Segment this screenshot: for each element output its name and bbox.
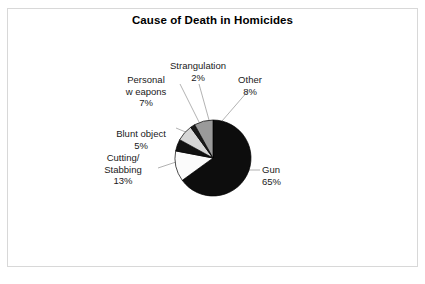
pie-label-other-percent: 8% <box>228 86 272 98</box>
pie-slices-group <box>175 120 251 196</box>
pie-label-other: Other 8% <box>228 74 272 97</box>
pie-label-gun-percent: 65% <box>262 176 306 188</box>
pie-label-personal-weapons-name-line2: w eapons <box>108 86 184 98</box>
pie-label-gun: Gun 65% <box>262 164 306 187</box>
pie-label-blunt-object-percent: 5% <box>100 140 182 152</box>
pie-label-personal-weapons-name-line1: Personal <box>108 74 184 86</box>
pie-label-gun-name: Gun <box>262 164 306 176</box>
chart-screenshot: Cause of Death in Homicides Strangulatio… <box>0 0 425 284</box>
pie-label-other-name: Other <box>228 74 272 86</box>
pie-label-cutting-stabbing-percent: 13% <box>86 175 160 187</box>
pie-label-blunt-object-name: Blunt object <box>100 128 182 140</box>
pie-label-cutting-stabbing-name-line2: Stabbing <box>86 164 160 176</box>
pie-label-personal-weapons-percent: 7% <box>108 97 184 109</box>
pie-label-personal-weapons: Personal w eapons 7% <box>108 74 184 109</box>
pie-label-cutting-stabbing: Cutting/ Stabbing 13% <box>86 152 160 187</box>
pie-label-cutting-stabbing-name-line1: Cutting/ <box>86 152 160 164</box>
leader-line-strangulation <box>199 84 209 120</box>
pie-label-strangulation-name: Strangulation <box>155 60 241 72</box>
pie-chart-graphic <box>0 0 425 284</box>
pie-label-blunt-object: Blunt object 5% <box>100 128 182 151</box>
